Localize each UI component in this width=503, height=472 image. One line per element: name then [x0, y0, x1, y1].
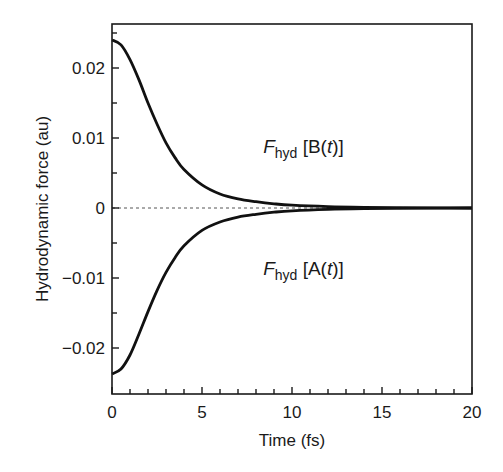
y-tick-label: −0.02 — [62, 339, 105, 358]
data-curves — [112, 40, 472, 374]
x-axis-ticks: 05101520 — [107, 387, 481, 422]
force-vs-time-chart: 05101520 0.020.010−0.01−0.02 Time (fs) H… — [0, 0, 503, 472]
curve-label-b: Fhyd [B(t)] — [263, 136, 344, 161]
y-tick-label: 0.01 — [72, 129, 105, 148]
x-tick-label: 15 — [373, 403, 392, 422]
x-tick-label: 20 — [463, 403, 482, 422]
curve-label-a: Fhyd [A(t)] — [263, 258, 344, 283]
series-curve-b — [112, 40, 472, 208]
series-curve-a — [112, 208, 472, 374]
y-axis-label: Hydrodynamic force (au) — [33, 116, 52, 302]
y-tick-label: −0.01 — [62, 269, 105, 288]
x-axis-label: Time (fs) — [259, 431, 325, 450]
x-tick-label: 0 — [107, 403, 116, 422]
y-axis-ticks: 0.020.010−0.01−0.02 — [62, 33, 119, 358]
y-tick-label: 0.02 — [72, 59, 105, 78]
y-tick-label: 0 — [96, 199, 105, 218]
x-tick-label: 10 — [283, 403, 302, 422]
x-tick-label: 5 — [197, 403, 206, 422]
